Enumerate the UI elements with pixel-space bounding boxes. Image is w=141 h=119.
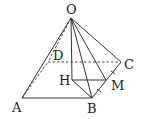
label-D: D [53,48,63,63]
edge-AD [22,62,48,98]
pyramid-diagram: O D C H M A B [0,0,141,119]
edge-OM [71,18,106,80]
label-M: M [111,78,124,93]
label-C: C [124,57,134,72]
label-O: O [66,2,77,17]
edge-OC [71,18,121,62]
edge-HB [72,80,92,98]
edge-OH [71,18,72,80]
edge-OB [71,18,92,98]
label-A: A [11,100,22,115]
label-B: B [87,101,97,116]
label-H: H [59,73,70,88]
